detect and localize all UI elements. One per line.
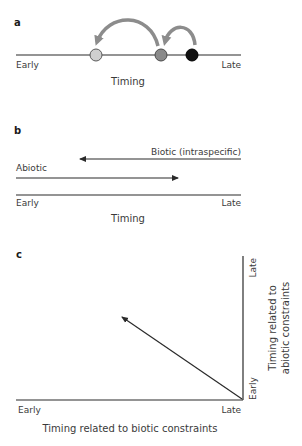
- figure: a Early Late Timing b Biotic (intraspeci…: [0, 0, 302, 446]
- diagonal-shift-arrow-icon: [122, 317, 242, 399]
- y-axis-title-line2: abiotic constraints: [280, 282, 291, 374]
- y-late-label: Late: [248, 258, 258, 278]
- early-shifted-point: [90, 49, 102, 61]
- panel-c: c Early Late Timing related to biotic co…: [16, 249, 291, 434]
- panel-b-label: b: [14, 125, 21, 136]
- panel-c-label: c: [16, 249, 22, 260]
- x-early-label: Early: [18, 405, 41, 415]
- panel-a-label: a: [14, 17, 21, 28]
- biotic-label: Biotic (intraspecific): [151, 147, 241, 157]
- y-axis-title-line1: Timing related to: [267, 285, 278, 372]
- panel-b-axis-title: Timing: [110, 213, 145, 224]
- abiotic-label: Abiotic: [16, 163, 47, 173]
- x-late-label: Late: [221, 405, 241, 415]
- intermediate-point: [155, 49, 167, 61]
- large-shift-arrow-icon: [97, 20, 158, 46]
- panel-a-early-label: Early: [16, 60, 39, 70]
- panel-b: b Biotic (intraspecific) Abiotic Early L…: [14, 125, 241, 224]
- x-axis-title: Timing related to biotic constraints: [42, 423, 218, 434]
- original-point: [186, 49, 198, 61]
- panel-b-late-label: Late: [221, 198, 241, 208]
- small-shift-arrow-icon: [165, 27, 195, 45]
- panel-b-early-label: Early: [16, 198, 39, 208]
- panel-a: a Early Late Timing: [14, 17, 241, 87]
- panel-a-axis-title: Timing: [110, 76, 145, 87]
- panel-a-late-label: Late: [221, 60, 241, 70]
- y-early-label: Early: [248, 377, 258, 400]
